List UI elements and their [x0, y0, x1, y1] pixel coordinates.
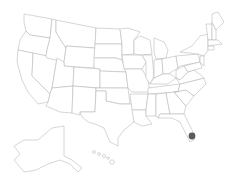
state-nm — [72, 86, 96, 115]
state-oh — [162, 56, 178, 74]
state-wi — [134, 36, 152, 55]
state-ia — [122, 55, 146, 69]
state-hi-1 — [93, 151, 96, 154]
state-hi-5 — [110, 160, 114, 164]
location-marker[interactable] — [189, 133, 196, 140]
state-co — [73, 67, 100, 88]
state-ma — [208, 40, 222, 46]
state-mi — [154, 38, 168, 59]
state-ks — [100, 71, 128, 88]
state-ms — [146, 94, 156, 116]
state-ar — [130, 94, 148, 110]
state-ny — [180, 34, 208, 56]
state-nd — [95, 28, 122, 44]
state-hi-2 — [98, 153, 101, 156]
state-hi-3 — [102, 154, 105, 157]
state-wy — [64, 46, 95, 68]
us-map — [0, 0, 238, 186]
state-sd — [94, 44, 122, 60]
state-ct — [208, 46, 214, 50]
state-fl — [158, 114, 194, 142]
state-ak — [14, 126, 82, 172]
state-hi-4 — [107, 157, 109, 159]
